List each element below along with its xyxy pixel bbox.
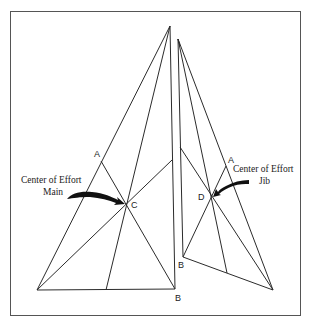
main-label-b: B [175, 293, 181, 303]
main-label-a: A [94, 149, 100, 159]
main-callout-line1: Center of Effort [21, 175, 82, 185]
jib-label-d: D [198, 192, 205, 202]
sail-plan-diagram: A C B A D B Center of Effort Main Center… [0, 0, 312, 329]
main-callout-arrow-icon [67, 192, 125, 205]
jib-callout-line1: Center of Effort [233, 164, 294, 174]
main-label-c: C [131, 200, 138, 210]
mainsail-outline [37, 26, 175, 290]
jib-callout-line2: Jib [259, 176, 270, 186]
jib-median-tack [183, 166, 226, 257]
jib-label-b: B [178, 260, 184, 270]
mainsail-median-clew [101, 161, 175, 289]
mainsail-median-head [106, 26, 170, 290]
main-callout-line2: Main [43, 187, 63, 197]
